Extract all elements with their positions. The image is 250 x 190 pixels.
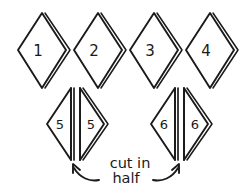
diamond-2-number: 2 [89,42,99,60]
cut-in-half-annotation: cut in half [73,155,179,186]
annotation-line-2: half [112,170,140,186]
right-arrow [153,164,179,181]
annotation-line-1: cut in [110,155,151,171]
diamond-6-right-number: 6 [191,117,199,132]
diamond-piece-3: 3 [130,13,182,88]
diamond-piece-5-split: 5 5 [47,88,108,160]
diamond-1-number: 1 [33,42,43,60]
diamond-piece-1: 1 [18,13,70,88]
diamond-6-left-number: 6 [160,117,168,132]
diamond-3-number: 3 [145,42,155,60]
diamond-piece-4: 4 [186,13,238,88]
left-arrow-curve [74,168,99,181]
diamond-cutting-diagram: 1 2 3 4 [0,0,250,190]
diamond-piece-6-split: 6 6 [151,88,212,160]
diamond-5-left-number: 5 [56,117,64,132]
diamond-piece-2: 2 [74,13,126,88]
left-arrow [73,164,99,181]
right-arrow-curve [153,168,178,181]
split-diamond-row: 5 5 6 6 [47,88,212,160]
diagram-canvas: 1 2 3 4 [0,0,250,190]
diamond-5-right-number: 5 [87,117,95,132]
whole-diamond-row: 1 2 3 4 [18,13,238,88]
diamond-4-number: 4 [201,42,211,60]
